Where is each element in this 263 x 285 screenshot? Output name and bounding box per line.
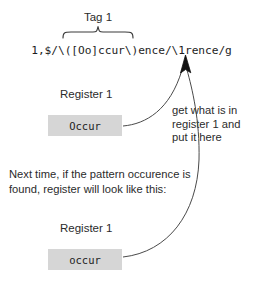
curly-brace-icon: [62, 25, 134, 39]
register-label-top: Register 1: [60, 87, 112, 101]
annotation-line-3: put it here: [172, 131, 263, 145]
register-box-bottom: occur: [48, 249, 122, 270]
arrow-from-bottom-register-to-backreference: [123, 70, 199, 257]
regex-command-text: 1,$/\([Oo]ccur\)ence/\1rence/g: [0, 44, 263, 57]
annotation-text: get what is in register 1 and put it her…: [172, 104, 263, 145]
register-box-top: Occur: [48, 115, 122, 136]
annotation-line-2: register 1 and: [172, 118, 263, 132]
annotation-line-1: get what is in: [172, 104, 263, 118]
explanation-text: Next time, if the pattern occurence is f…: [9, 167, 219, 196]
register-label-bottom: Register 1: [60, 221, 112, 235]
tag-label: Tag 1: [0, 11, 196, 24]
explanation-line-2: found, register will look like this:: [9, 182, 219, 197]
diagram-canvas: Tag 1 1,$/\([Oo]ccur\)ence/\1rence/g Reg…: [0, 0, 263, 285]
explanation-line-1: Next time, if the pattern occurence is: [9, 167, 219, 182]
arrowhead-icon: [181, 55, 191, 73]
